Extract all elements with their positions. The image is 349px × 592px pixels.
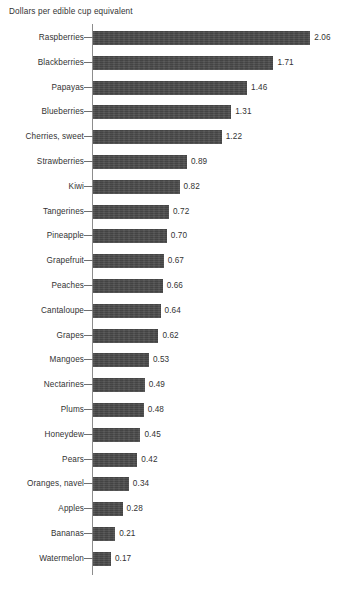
category-label: Blueberries	[41, 100, 84, 124]
bar	[93, 31, 310, 45]
axis-tick-mark	[84, 508, 93, 509]
plot-area: Raspberries2.06Blackberries1.71Papayas1.…	[0, 0, 349, 592]
axis-tick-mark	[84, 459, 93, 460]
category-label: Tangerines	[43, 200, 84, 224]
axis-tick-mark	[84, 533, 93, 534]
bar	[93, 453, 137, 467]
category-label: Cantaloupe	[41, 299, 84, 323]
bar	[93, 353, 149, 367]
bar	[93, 428, 140, 442]
bar	[93, 205, 169, 219]
axis-tick-mark	[84, 409, 93, 410]
bar-row: Mangoes0.53	[0, 348, 349, 372]
category-label: Mangoes	[50, 348, 84, 372]
bar-row: Plums0.48	[0, 398, 349, 422]
axis-tick-mark	[84, 359, 93, 360]
bar	[93, 105, 231, 119]
bar-value-label: 0.62	[162, 327, 178, 345]
axis-tick-mark	[84, 87, 93, 88]
bar-value-label: 0.28	[127, 500, 143, 518]
bar-value-label: 0.42	[141, 451, 157, 469]
axis-tick-mark	[84, 136, 93, 137]
axis-tick-mark	[84, 335, 93, 336]
bar-value-label: 0.48	[148, 401, 164, 419]
bar-row: Pineapple0.70	[0, 224, 349, 248]
bar-value-label: 0.34	[133, 475, 149, 493]
bar-row: Tangerines0.72	[0, 200, 349, 224]
bar-row: Strawberries0.89	[0, 150, 349, 174]
bar-value-label: 1.22	[226, 128, 242, 146]
bar-row: Bananas0.21	[0, 522, 349, 546]
category-label: Blackberries	[38, 51, 84, 75]
axis-tick-mark	[84, 111, 93, 112]
bar-value-label: 0.53	[153, 351, 169, 369]
bar-value-label: 0.64	[165, 302, 181, 320]
axis-tick-mark	[84, 211, 93, 212]
bar-row: Honeydew0.45	[0, 423, 349, 447]
axis-tick-mark	[84, 161, 93, 162]
category-label: Grapefruit	[47, 249, 84, 273]
bar-value-label: 1.31	[235, 103, 251, 121]
bar-row: Peaches0.66	[0, 274, 349, 298]
bar-row: Cantaloupe0.64	[0, 299, 349, 323]
bar-row: Oranges, navel0.34	[0, 472, 349, 496]
bar-row: Grapes0.62	[0, 324, 349, 348]
bar	[93, 130, 222, 144]
category-label: Oranges, navel	[27, 472, 84, 496]
category-label: Cherries, sweet	[26, 125, 84, 149]
axis-tick-mark	[84, 434, 93, 435]
category-label: Pineapple	[47, 224, 84, 248]
bar-row: Raspberries2.06	[0, 26, 349, 50]
bar-value-label: 0.70	[171, 227, 187, 245]
axis-tick-mark	[84, 235, 93, 236]
bar-chart: Dollars per edible cup equivalent Raspbe…	[0, 0, 349, 592]
axis-tick-mark	[84, 558, 93, 559]
axis-tick-mark	[84, 260, 93, 261]
bar-value-label: 1.46	[251, 79, 267, 97]
axis-tick-mark	[84, 310, 93, 311]
bar	[93, 279, 163, 293]
bar	[93, 329, 158, 343]
bar-value-label: 1.71	[277, 54, 293, 72]
bar-value-label: 0.82	[184, 178, 200, 196]
category-label: Bananas	[51, 522, 84, 546]
bar-value-label: 0.66	[167, 277, 183, 295]
bar-value-label: 0.17	[115, 550, 131, 568]
category-label: Plums	[61, 398, 84, 422]
bar-value-label: 0.45	[144, 426, 160, 444]
bar-row: Cherries, sweet1.22	[0, 125, 349, 149]
bar	[93, 56, 273, 70]
bar-row: Nectarines0.49	[0, 373, 349, 397]
category-label: Watermelon	[39, 547, 84, 571]
category-label: Raspberries	[39, 26, 84, 50]
bar	[93, 254, 164, 268]
category-label: Peaches	[51, 274, 84, 298]
bar-value-label: 0.89	[191, 153, 207, 171]
bar	[93, 477, 129, 491]
bar	[93, 552, 111, 566]
bar-row: Papayas1.46	[0, 76, 349, 100]
bar	[93, 229, 167, 243]
bar-value-label: 0.67	[168, 252, 184, 270]
category-label: Papayas	[51, 76, 84, 100]
bar-row: Blueberries1.31	[0, 100, 349, 124]
category-label: Apples	[58, 497, 84, 521]
category-label: Pears	[62, 448, 84, 472]
bar	[93, 527, 115, 541]
bar	[93, 180, 180, 194]
category-label: Grapes	[57, 324, 84, 348]
bar-value-label: 0.49	[149, 376, 165, 394]
axis-tick-mark	[84, 483, 93, 484]
category-label: Honeydew	[45, 423, 85, 447]
bar-value-label: 0.72	[173, 203, 189, 221]
bar	[93, 155, 187, 169]
bar	[93, 403, 144, 417]
category-label: Strawberries	[37, 150, 84, 174]
bar-row: Apples0.28	[0, 497, 349, 521]
axis-tick-mark	[84, 37, 93, 38]
bar-row: Watermelon0.17	[0, 547, 349, 571]
category-label: Nectarines	[44, 373, 84, 397]
bar	[93, 304, 161, 318]
bar	[93, 502, 123, 516]
bar-row: Pears0.42	[0, 448, 349, 472]
